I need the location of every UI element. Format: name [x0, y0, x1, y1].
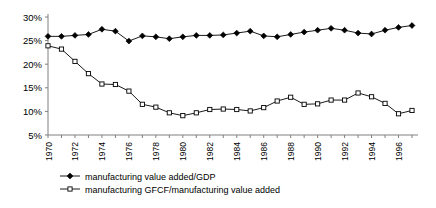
x-axis-tick-label: 1974	[97, 142, 107, 161]
data-point	[167, 111, 171, 115]
data-point	[342, 27, 348, 33]
data-point	[274, 34, 280, 40]
x-axis-tick-label: 1994	[367, 142, 377, 161]
data-point	[261, 33, 267, 39]
y-axis-tick-label: 20%	[23, 59, 43, 70]
data-point	[234, 30, 240, 36]
legend-item-label: manufacturing value added/GDP	[85, 172, 216, 182]
data-point	[248, 109, 252, 113]
x-axis-tick-label: 1984	[232, 142, 242, 161]
data-point	[369, 95, 373, 99]
data-point	[247, 28, 253, 34]
data-point	[180, 34, 186, 40]
x-axis-tick-label: 1982	[205, 142, 215, 161]
data-point	[194, 111, 198, 115]
data-point	[396, 112, 400, 116]
data-point	[316, 102, 320, 106]
data-point	[342, 98, 346, 102]
data-point	[72, 33, 78, 39]
legend-marker-open-square	[68, 187, 72, 191]
legend-marker-filled-diamond	[67, 173, 73, 179]
data-point	[382, 27, 388, 33]
data-point	[369, 31, 375, 37]
y-axis-tick-label: 10%	[23, 106, 43, 117]
data-point	[113, 82, 117, 86]
y-axis-tick-label: 25%	[23, 35, 43, 46]
data-point	[59, 33, 65, 39]
y-axis-tick-label: 5%	[28, 130, 42, 141]
data-point	[193, 33, 199, 39]
x-axis-tick-label: 1972	[70, 142, 80, 161]
x-axis-tick-label: 1976	[124, 142, 134, 161]
data-point	[127, 89, 131, 93]
data-point	[207, 33, 213, 39]
x-axis-tick-label: 1978	[151, 142, 161, 161]
data-point	[356, 91, 360, 95]
data-point	[86, 32, 92, 38]
data-point	[329, 98, 333, 102]
legend: manufacturing value added/GDPmanufacturi…	[60, 172, 280, 195]
data-point	[289, 95, 293, 99]
x-axis-tick-label: 1992	[340, 142, 350, 161]
data-point	[275, 99, 279, 103]
data-point	[86, 72, 90, 76]
data-point	[396, 24, 402, 30]
data-point	[59, 47, 63, 51]
chart-container: 30%25%20%15%10%5%19701972197419761978198…	[0, 0, 436, 208]
data-point	[208, 107, 212, 111]
data-point	[153, 34, 159, 40]
data-point	[315, 27, 321, 33]
data-point	[139, 33, 145, 39]
data-point	[235, 107, 239, 111]
data-point	[99, 26, 105, 32]
data-point	[383, 101, 387, 105]
data-point	[262, 106, 266, 110]
data-point	[46, 44, 50, 48]
data-point	[288, 32, 294, 38]
x-axis-tick-label: 1988	[286, 142, 296, 161]
series-1	[45, 23, 415, 44]
legend-item-label: manufacturing GFCF/manufacturing value a…	[85, 185, 280, 195]
data-point	[181, 114, 185, 118]
data-point	[221, 107, 225, 111]
x-axis-tick-label: 1996	[394, 142, 404, 161]
data-point	[140, 102, 144, 106]
y-axis-tick-label: 15%	[23, 82, 43, 93]
data-point	[166, 36, 172, 42]
data-point	[154, 105, 158, 109]
x-axis-tick-label: 1990	[313, 142, 323, 161]
data-point	[409, 23, 415, 29]
data-point	[45, 33, 51, 39]
line-chart: 30%25%20%15%10%5%19701972197419761978198…	[0, 0, 436, 208]
data-point	[220, 32, 226, 38]
legend-item[interactable]: manufacturing value added/GDP	[60, 172, 216, 182]
x-axis-tick-label: 1980	[178, 142, 188, 161]
x-axis-tick-label: 1970	[44, 142, 54, 161]
data-point	[302, 102, 306, 106]
series-line	[48, 46, 412, 116]
y-axis-tick-label: 30%	[23, 12, 43, 23]
data-point	[355, 30, 361, 36]
data-point	[100, 82, 104, 86]
data-point	[73, 59, 77, 63]
legend-item[interactable]: manufacturing GFCF/manufacturing value a…	[60, 185, 280, 195]
data-point	[328, 25, 334, 31]
data-point	[410, 108, 414, 112]
x-axis-tick-label: 1986	[259, 142, 269, 161]
data-point	[301, 29, 307, 35]
series-2	[46, 44, 414, 118]
